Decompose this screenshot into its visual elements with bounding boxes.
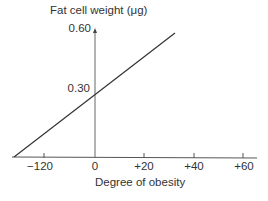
chart: Fat cell weight (μg) 0.60 0.30 −120 0 +2… [0,0,268,201]
x-tick-label-plus-60: +60 [224,160,264,172]
x-axis [12,157,257,158]
x-tick-label-plus-40: +40 [174,160,214,172]
x-axis-label: Degree of obesity [95,176,185,188]
x-tick-label-minus-120: −120 [20,160,60,172]
y-tick-label-0.60: 0.60 [51,22,91,34]
x-tick-label-0: 0 [75,160,115,172]
x-tick-label-plus-20: +20 [124,160,164,172]
y-axis-label: Fat cell weight (μg) [50,4,147,16]
y-axis-arrow-icon [93,28,97,33]
y-tick-label-0.30: 0.30 [50,82,90,94]
